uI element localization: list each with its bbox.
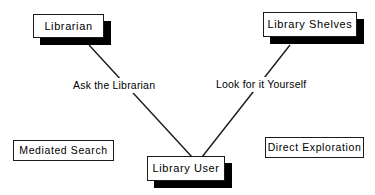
node-library-user[interactable]: Library User: [147, 156, 225, 181]
node-library-shelves[interactable]: Library Shelves: [263, 12, 357, 37]
node-label-librarian: Librarian: [44, 21, 92, 32]
edge-label-ask-the-librarian: Ask the Librarian: [70, 78, 158, 93]
node-label-library-shelves: Library Shelves: [268, 19, 353, 30]
node-librarian[interactable]: Librarian: [33, 14, 104, 38]
node-direct-exploration[interactable]: Direct Exploration: [265, 137, 364, 158]
node-mediated-search[interactable]: Mediated Search: [13, 140, 114, 161]
node-label-direct-exploration: Direct Exploration: [268, 142, 362, 153]
edge-label-look-for-it-yourself: Look for it Yourself: [213, 77, 309, 92]
node-label-library-user: Library User: [152, 163, 219, 174]
diagram-canvas: Librarian Library Shelves Library User M…: [0, 0, 375, 195]
node-label-mediated-search: Mediated Search: [19, 145, 107, 156]
